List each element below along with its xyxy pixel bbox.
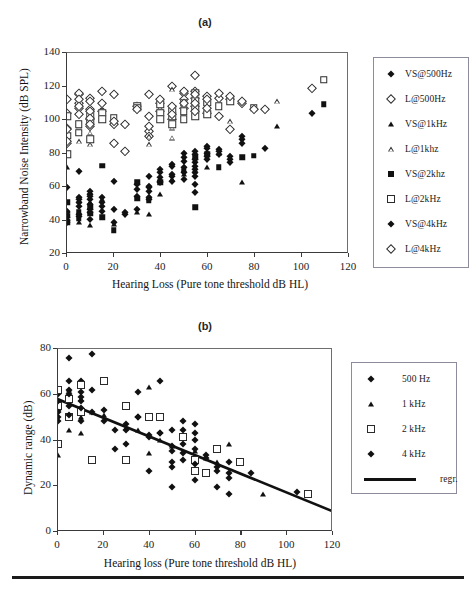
open-diamond-marker [86,106,95,115]
open-diamond-marker [97,87,106,96]
open-diamond-marker [156,98,165,107]
open-diamond-marker [86,105,95,114]
legend-marker [362,448,380,460]
legend-item[interactable]: 500 Hz [362,373,430,385]
open-diamond-marker [191,101,200,110]
filled-diamond-marker [227,156,233,162]
filled-diamond-marker [67,219,70,225]
open-diamond-marker [67,108,72,117]
y-tick-label: 140 [26,45,60,57]
y-tick-label: 60 [26,179,60,191]
triangle-inner-fill [170,127,174,130]
filled-diamond-marker [192,169,198,175]
legend-item[interactable]: L@4kHz [382,243,441,255]
filled-diamond-marker [180,164,186,170]
triangle-inner-fill [100,113,104,116]
filled-diamond-marker [157,169,163,175]
open-diamond-marker [191,98,200,107]
filled-diamond-marker [367,450,374,457]
filled-diamond-marker [87,206,93,212]
filled-diamond-marker [180,154,186,160]
legend-item[interactable]: 4 kHz [362,448,425,460]
legend-item[interactable]: VS@2khz [382,168,445,180]
panel-a-title: (a) [165,16,245,28]
filled-diamond-marker [204,156,210,162]
open-square-marker [110,114,118,122]
y-tick-label: 40 [17,433,51,445]
legend-item[interactable]: VS@4kHz [382,218,447,230]
filled-diamond-marker [192,156,198,162]
filled-triangle-marker [146,211,152,216]
open-triangle-marker [204,102,210,107]
filled-triangle-marker [111,221,117,226]
open-diamond-marker [67,125,72,134]
legend-label: 500 Hz [402,374,430,384]
x-tick-label: 100 [286,260,316,272]
triangle-inner-fill [170,137,174,140]
open-diamond-marker [191,70,200,79]
open-diamond-marker [86,93,95,102]
filled-diamond-marker [67,184,70,190]
filled-square-marker [216,165,222,171]
legend-item[interactable]: VS@500Hz [382,68,452,80]
open-square-marker [75,129,83,137]
filled-diamond-marker [87,209,93,215]
open-triangle-marker [239,97,245,102]
filled-diamond-marker [192,151,198,157]
x-tick-label: 80 [239,260,269,272]
legend-item[interactable]: 2 kHz [362,423,425,435]
open-triangle-marker [87,118,93,123]
filled-diamond-marker [204,149,210,155]
legend-regression-line [364,478,416,481]
open-diamond-marker [191,106,200,115]
figure-page: (a) Narrowband Noise Intensity (dB SPL) … [0,0,476,591]
x-tick-mark [240,531,241,535]
triangle-inner-fill [205,104,209,107]
filled-diamond-marker [110,206,116,212]
x-tick-label: 20 [88,538,118,550]
filled-square-marker [76,209,82,215]
open-square-marker [67,112,71,120]
open-diamond-marker [121,146,130,155]
open-square-marker [157,116,165,124]
open-diamond-marker [97,98,106,107]
filled-diamond-marker [134,181,140,187]
triangle-inner-fill [158,102,162,105]
x-tick-label: 40 [145,260,175,272]
x-tick-mark [66,253,67,257]
filled-square-marker [67,213,70,219]
legend-item[interactable]: regr. [362,473,458,485]
legend-marker [362,398,380,410]
legend-label: L@500Hz [405,94,446,104]
legend-item[interactable]: VS@1kHz [382,118,447,130]
filled-diamond-marker [239,136,245,142]
filled-diamond-marker [204,143,210,149]
open-diamond-marker [144,131,153,140]
open-triangle-marker [146,133,152,138]
open-diamond-marker [214,111,223,120]
filled-triangle-marker [87,223,93,228]
open-diamond-marker [191,90,200,99]
filled-triangle-marker [169,177,175,182]
filled-diamond-marker [87,201,93,207]
filled-square-marker [181,168,187,174]
x-tick-mark [301,253,302,257]
legend-item[interactable]: L@2kHz [382,193,441,205]
legend-item[interactable]: L@500Hz [382,93,446,105]
open-diamond-marker [74,98,83,107]
filled-diamond-marker [99,207,105,213]
filled-diamond-marker [215,151,221,157]
open-diamond-marker [156,95,165,104]
filled-square-marker [88,204,94,210]
filled-diamond-marker [67,207,70,213]
legend-item[interactable]: L@1khz [382,143,439,155]
panel-b-title: (b) [165,320,245,332]
open-diamond-marker [307,83,316,92]
legend-item[interactable]: 1 kHz [362,398,425,410]
open-diamond-marker [167,101,176,110]
open-diamond-marker [202,92,211,101]
x-tick-label: 0 [42,538,72,550]
filled-diamond-marker [192,166,198,172]
y-tick-label: 120 [26,79,60,91]
open-diamond-marker [179,103,188,112]
